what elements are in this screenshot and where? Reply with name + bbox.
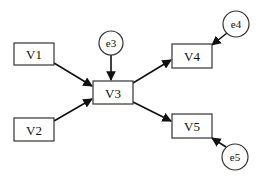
node-e5-label: e5: [230, 151, 241, 163]
node-e3: e3: [99, 31, 123, 55]
edge-v3-v5: [133, 102, 171, 121]
node-v5: V5: [172, 114, 212, 138]
edge-v2-v3: [54, 99, 92, 121]
node-v2-label: V2: [26, 123, 42, 138]
edge-v3-v4: [133, 60, 171, 83]
node-v1: V1: [14, 43, 54, 65]
node-v2: V2: [14, 118, 54, 141]
node-e5: e5: [222, 144, 248, 170]
node-e4-label: e4: [231, 18, 242, 30]
edge-e4-v4: [212, 33, 227, 45]
node-v3: V3: [93, 81, 133, 104]
node-e3-label: e3: [106, 37, 117, 49]
path-diagram: V1 V2 V3 V4 V5 e3 e4 e5: [0, 0, 263, 181]
node-v3-label: V3: [105, 86, 121, 101]
edge-v1-v3: [54, 63, 92, 86]
node-v4: V4: [172, 44, 212, 68]
edge-e5-v5: [212, 138, 226, 147]
node-v5-label: V5: [184, 119, 200, 134]
node-e4: e4: [223, 11, 249, 37]
node-v1-label: V1: [26, 47, 42, 62]
node-v4-label: V4: [184, 49, 200, 64]
